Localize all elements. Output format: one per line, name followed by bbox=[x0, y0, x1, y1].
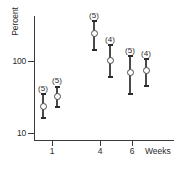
x-axis-title: Weeks bbox=[145, 147, 171, 156]
y-axis-line bbox=[34, 16, 35, 141]
error-bar-cap-upper-p5 bbox=[128, 55, 133, 57]
y-tick-mark-100 bbox=[28, 61, 34, 62]
x-axis-line bbox=[34, 140, 174, 141]
sample-size-label-p4: (4) bbox=[98, 36, 122, 44]
y-tick-mark-10 bbox=[28, 133, 34, 134]
error-bar-cap-lower-p3 bbox=[92, 49, 97, 51]
y-axis-title: Percent bbox=[11, 0, 20, 48]
sample-size-label-p1: (5) bbox=[31, 85, 55, 93]
sample-size-label-p6: (4) bbox=[134, 50, 158, 58]
error-bar-cap-lower-p5 bbox=[128, 93, 133, 95]
error-bar-cap-lower-p2 bbox=[55, 106, 60, 108]
error-bar-cap-upper-p2 bbox=[55, 86, 60, 88]
sample-size-label-p2: (5) bbox=[45, 77, 69, 85]
marker-p2 bbox=[54, 93, 61, 100]
error-bar-cap-upper-p3 bbox=[92, 20, 97, 22]
error-bar-cap-upper-p6 bbox=[144, 58, 149, 60]
marker-p1 bbox=[40, 103, 47, 110]
error-bar-cap-lower-p4 bbox=[108, 76, 113, 78]
y-tick-label-10: 10 bbox=[2, 129, 26, 138]
marker-p6 bbox=[143, 67, 150, 74]
marker-p3 bbox=[91, 30, 98, 37]
error-bar-cap-upper-p4 bbox=[108, 44, 113, 46]
marker-p4 bbox=[107, 57, 114, 64]
sample-size-label-p3: (5) bbox=[82, 12, 106, 20]
x-tick-label-1: 1 bbox=[43, 147, 61, 156]
marker-p5 bbox=[127, 69, 134, 76]
x-tick-label-4: 4 bbox=[91, 147, 109, 156]
error-bar-cap-lower-p6 bbox=[144, 85, 149, 87]
error-bar-cap-upper-p1 bbox=[41, 93, 46, 95]
chart-figure: Percent Weeks 100 10 1 4 6 (5)(5)(5)(4)(… bbox=[0, 0, 185, 169]
y-tick-label-100: 100 bbox=[2, 57, 26, 66]
error-bar-cap-lower-p1 bbox=[41, 117, 46, 119]
x-tick-label-6: 6 bbox=[123, 147, 141, 156]
